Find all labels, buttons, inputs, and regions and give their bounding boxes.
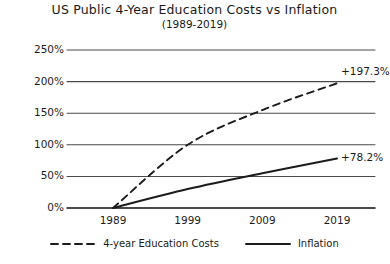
y-axis-tick-labels: 0%50%100%150%200%250%: [0, 0, 64, 264]
chart-legend: 4-year Education Costs Inflation: [0, 238, 389, 249]
legend-label-inflation: Inflation: [298, 238, 339, 249]
x-axis-tick-label: 2009: [249, 214, 276, 226]
value-label-inflation: +78.2%: [341, 151, 383, 163]
series-line-inflation: [113, 159, 337, 208]
gridlines: [67, 50, 375, 208]
y-axis-tick-label: 0%: [6, 201, 64, 213]
x-axis-tick-label: 2019: [324, 214, 351, 226]
y-axis-tick-label: 200%: [6, 75, 64, 87]
y-axis-tick-label: 250%: [6, 43, 64, 55]
legend-item-education-costs: 4-year Education Costs: [50, 238, 219, 249]
legend-item-inflation: Inflation: [245, 238, 339, 249]
y-axis-tick-label: 100%: [6, 138, 64, 150]
value-label-education-costs: +197.3%: [341, 65, 390, 77]
x-axis-tick-label: 1999: [174, 214, 201, 226]
legend-swatch-dashed-icon: [50, 239, 96, 249]
legend-label-education-costs: 4-year Education Costs: [103, 238, 219, 249]
y-axis-tick-label: 50%: [6, 169, 64, 181]
legend-swatch-solid-icon: [245, 239, 291, 249]
series-line-education-costs: [113, 83, 337, 208]
x-axis-tick-label: 1989: [100, 214, 127, 226]
y-axis-tick-label: 150%: [6, 106, 64, 118]
